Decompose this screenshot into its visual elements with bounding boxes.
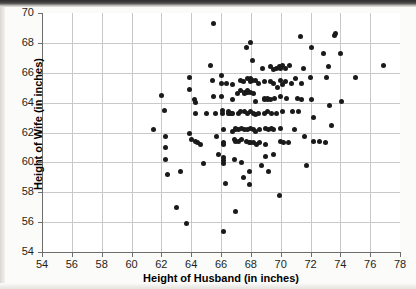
y-tick-label: 64 xyxy=(10,96,34,108)
x-tick-label: 68 xyxy=(239,258,263,270)
data-point xyxy=(278,126,283,131)
data-point xyxy=(221,161,226,166)
data-point xyxy=(275,85,280,90)
x-tick-mark xyxy=(221,253,222,257)
data-point xyxy=(266,169,271,174)
data-point xyxy=(220,111,225,116)
scatter-plot-figure: 54565860626466687072747678 5456586062646… xyxy=(0,0,416,289)
data-point xyxy=(323,140,328,145)
data-point xyxy=(326,64,331,69)
data-point xyxy=(311,115,316,120)
data-point xyxy=(211,21,216,26)
x-tick-mark xyxy=(102,253,103,257)
y-tick-label: 66 xyxy=(10,66,34,78)
data-point xyxy=(353,75,358,80)
x-tick-mark xyxy=(251,253,252,257)
data-point xyxy=(278,94,283,99)
data-point xyxy=(250,58,255,63)
x-tick-label: 58 xyxy=(90,258,114,270)
x-tick-label: 74 xyxy=(328,258,352,270)
data-point xyxy=(239,160,244,165)
data-point xyxy=(193,111,198,116)
data-point xyxy=(338,51,343,56)
data-point xyxy=(327,103,332,108)
y-tick-label: 60 xyxy=(10,155,34,167)
data-point xyxy=(302,134,307,139)
data-point xyxy=(309,45,314,50)
data-point xyxy=(159,93,164,98)
data-point xyxy=(151,127,156,132)
data-point xyxy=(298,34,303,39)
data-point xyxy=(271,127,276,132)
data-point xyxy=(223,181,228,186)
x-tick-mark xyxy=(72,253,73,257)
data-point xyxy=(296,109,301,114)
data-point xyxy=(251,91,256,96)
data-point xyxy=(165,172,170,177)
x-tick-label: 76 xyxy=(358,258,382,270)
data-point xyxy=(256,111,261,116)
data-point xyxy=(284,96,289,101)
plot-area xyxy=(42,13,400,252)
data-point xyxy=(329,123,334,128)
x-tick-label: 72 xyxy=(299,258,323,270)
data-point xyxy=(187,87,192,92)
data-point xyxy=(280,109,285,114)
x-axis-label: Height of Husband (in inches) xyxy=(42,272,400,284)
data-point xyxy=(201,161,206,166)
gridline-horizontal xyxy=(42,222,400,223)
data-point xyxy=(230,82,235,87)
data-point xyxy=(256,81,261,86)
scan-edge-left xyxy=(0,0,5,289)
x-tick-mark xyxy=(132,253,133,257)
data-point xyxy=(263,142,268,147)
data-point xyxy=(174,205,179,210)
data-point xyxy=(224,81,229,86)
data-point xyxy=(214,134,219,139)
data-point xyxy=(301,66,306,71)
data-point xyxy=(198,142,203,147)
data-point xyxy=(184,221,189,226)
y-tick-label: 58 xyxy=(10,185,34,197)
data-point xyxy=(271,152,276,157)
data-point xyxy=(221,142,226,147)
data-point xyxy=(299,97,304,102)
data-point xyxy=(216,152,221,157)
data-point xyxy=(221,127,226,132)
data-point xyxy=(193,100,198,105)
y-axis-label: Height of Wife (in inches) xyxy=(32,24,44,224)
data-point xyxy=(230,97,235,102)
data-point xyxy=(339,99,344,104)
y-tick-label: 56 xyxy=(10,215,34,227)
x-tick-label: 54 xyxy=(30,258,54,270)
gridline-horizontal xyxy=(42,133,400,134)
data-point xyxy=(257,140,262,145)
data-point xyxy=(208,63,213,68)
data-point xyxy=(221,229,226,234)
data-point xyxy=(309,97,314,102)
x-tick-label: 66 xyxy=(209,258,233,270)
data-point xyxy=(289,81,294,86)
data-point xyxy=(299,81,304,86)
data-point xyxy=(277,193,282,198)
data-point xyxy=(232,157,237,162)
data-point xyxy=(308,75,313,80)
data-point xyxy=(311,139,316,144)
data-point xyxy=(163,145,168,150)
data-point xyxy=(244,45,249,50)
x-tick-label: 70 xyxy=(269,258,293,270)
x-tick-mark xyxy=(281,253,282,257)
data-point xyxy=(321,51,326,56)
data-point xyxy=(290,109,295,114)
data-point xyxy=(162,108,167,113)
data-point xyxy=(287,63,292,68)
data-point xyxy=(213,111,218,116)
data-point xyxy=(381,63,386,68)
data-point xyxy=(324,75,329,80)
data-point xyxy=(283,79,288,84)
x-tick-mark xyxy=(191,253,192,257)
gridline-horizontal xyxy=(42,103,400,104)
data-point xyxy=(253,99,258,104)
data-point xyxy=(260,66,265,71)
data-point xyxy=(304,163,309,168)
